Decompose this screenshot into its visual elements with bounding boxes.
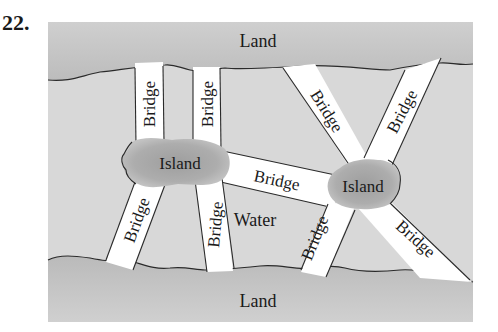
bridge-label: Bridge: [140, 81, 159, 127]
water-label: Water: [234, 210, 277, 230]
bridge-label: Bridge: [198, 81, 217, 127]
bridge-top-left-2: Bridge: [193, 67, 221, 150]
bridges-diagram: Bridge Bridge Bridge Bridge Bridge Bridg…: [0, 0, 498, 332]
bridge-label: Bridge: [204, 201, 227, 249]
land-top-label: Land: [240, 31, 277, 51]
island-left-label: Island: [159, 154, 201, 173]
island-right-label: Island: [342, 177, 384, 196]
bridge-top-left-1: Bridge: [135, 62, 164, 150]
land-bottom-label: Land: [240, 291, 277, 311]
island-left: Island: [121, 138, 230, 187]
